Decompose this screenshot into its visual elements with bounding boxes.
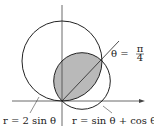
big-circle-label: r = 2 sin θ — [3, 115, 56, 126]
small-circle-label: r = sin θ + cos θ — [72, 115, 154, 126]
theta-label: θ = — [111, 48, 129, 59]
x-axis-arrow-icon — [139, 99, 145, 103]
small-label-pointer — [103, 106, 112, 113]
big-label-pointer — [30, 97, 39, 113]
polar-diagram: r = 2 sin θ r = sin θ + cos θ θ = π 4 — [0, 0, 154, 135]
theta-denominator: 4 — [137, 52, 143, 63]
